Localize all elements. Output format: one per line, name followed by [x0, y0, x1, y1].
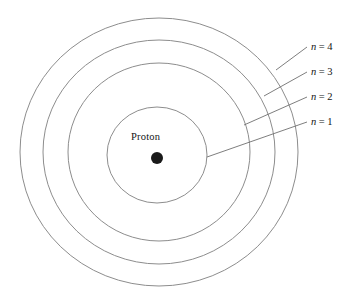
- shell-label-n3-equals: =: [316, 66, 327, 77]
- shell-label-n2-value: 2: [327, 91, 332, 102]
- leader-line-n4: [276, 47, 307, 70]
- orbit-ring-n3: [43, 40, 275, 264]
- shell-label-n1-value: 1: [327, 116, 332, 127]
- leader-line-n2: [244, 97, 307, 125]
- shell-label-n4: n = 4: [311, 42, 333, 53]
- shell-label-n3: n = 3: [311, 67, 333, 78]
- bohr-model-diagram: Proton n = 4 n = 3 n = 2 n = 1: [0, 0, 352, 306]
- shell-label-n2: n = 2: [311, 92, 333, 103]
- leader-line-n1: [207, 122, 307, 157]
- leader-line-n3: [264, 72, 307, 96]
- proton-dot-icon: [151, 152, 163, 164]
- shell-label-n4-equals: =: [316, 41, 327, 52]
- orbit-ring-n4: [20, 18, 298, 286]
- diagram-canvas: [0, 0, 352, 306]
- shell-label-n4-value: 4: [327, 41, 332, 52]
- shell-label-n3-value: 3: [327, 66, 332, 77]
- shell-label-n2-equals: =: [316, 91, 327, 102]
- shell-label-n1: n = 1: [311, 117, 333, 128]
- proton-label: Proton: [131, 132, 160, 143]
- shell-label-n1-equals: =: [316, 116, 327, 127]
- orbit-ring-n2: [68, 63, 250, 241]
